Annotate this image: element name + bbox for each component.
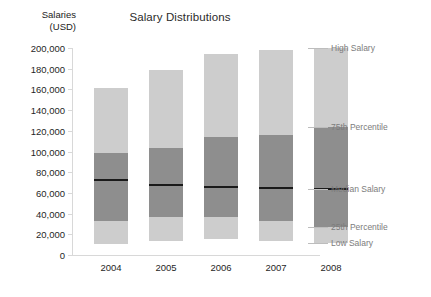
y-tick-label: 200,000 [31,43,65,54]
y-tick-mark [68,255,72,256]
salary-bar[interactable] [94,88,128,243]
annotation-label: Median Salary [331,184,385,194]
y-tick-mark [68,89,72,90]
x-tick-label: 2007 [246,262,306,273]
y-tick-label: 180,000 [31,63,65,74]
y-tick-mark [68,110,72,111]
x-tick-label: 2006 [191,262,251,273]
annotation-leader-line [308,48,328,49]
y-tick-label: 60,000 [36,187,65,198]
y-tick-label: 80,000 [36,167,65,178]
y-tick-mark [68,193,72,194]
y-tick-mark [68,234,72,235]
annotation-label: High Salary [331,43,375,53]
x-axis-line [72,255,320,256]
annotation-label: 25th Percentile [331,222,388,232]
y-tick-mark [68,172,72,173]
bar-interquartile-range [149,148,183,216]
y-tick-mark [68,69,72,70]
x-tick-label: 2005 [136,262,196,273]
x-tick-label: 2004 [81,262,141,273]
y-axis-label-line1: Salaries [22,9,76,21]
salary-bar[interactable] [149,70,183,241]
bar-median-line [94,179,128,181]
annotation-label: Low Salary [331,238,373,248]
y-tick-mark [68,152,72,153]
bar-median-line [149,184,183,186]
bar-interquartile-range [94,153,128,221]
salary-bar[interactable] [314,48,348,243]
bar-interquartile-range [314,127,348,227]
y-tick-label: 160,000 [31,84,65,95]
annotation-leader-line [308,127,328,128]
plot-area: 020,00040,00060,00080,000100,000120,0001… [72,48,320,258]
annotation-leader-line [308,227,328,228]
annotation-label: 75th Percentile [331,122,388,132]
y-tick-label: 120,000 [31,125,65,136]
y-tick-mark [68,48,72,49]
salary-bar[interactable] [204,54,238,239]
y-tick-label: 140,000 [31,105,65,116]
salary-bar[interactable] [259,50,293,240]
y-axis-line [72,48,73,256]
bar-interquartile-range [204,137,238,217]
bar-median-line [204,186,238,188]
annotation-leader-line [308,189,328,190]
y-axis-label: Salaries (USD) [22,9,76,33]
bar-interquartile-range [259,135,293,221]
y-tick-label: 20,000 [36,229,65,240]
y-axis-label-line2: (USD) [22,21,76,33]
salary-distributions-chart: Salary Distributions Salaries (USD) 020,… [0,0,431,297]
y-tick-label: 40,000 [36,208,65,219]
bar-median-line [259,187,293,189]
y-tick-mark [68,214,72,215]
y-tick-label: 100,000 [31,146,65,157]
y-tick-mark [68,131,72,132]
annotation-leader-line [308,243,328,244]
y-tick-label: 0 [60,250,65,261]
x-tick-label: 2008 [301,262,361,273]
